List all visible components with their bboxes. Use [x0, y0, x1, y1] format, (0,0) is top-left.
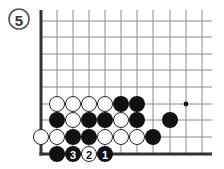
black-stone-icon [81, 112, 97, 128]
white-stone [66, 97, 81, 112]
black-stone-icon [113, 96, 129, 112]
black-stone-3: 3 [65, 146, 81, 162]
black-stone-icon [97, 112, 113, 128]
black-stone-icon [49, 112, 65, 128]
black-stone-icon [129, 96, 145, 112]
move-number: 2 [86, 149, 92, 161]
white-stone [82, 97, 97, 112]
white-stone-icon [66, 97, 81, 112]
black-stone-icon [129, 112, 145, 128]
move-number: 1 [102, 149, 108, 161]
star-point-icon [184, 102, 189, 107]
white-stone [98, 97, 113, 112]
white-stone [130, 130, 145, 145]
white-stone-icon [82, 97, 97, 112]
black-stone [97, 112, 113, 128]
white-stone-2: 2 [82, 147, 97, 162]
white-stone-icon [66, 113, 81, 128]
black-stone-icon [49, 146, 65, 162]
white-stone-icon [114, 113, 129, 128]
black-stone-icon [162, 112, 178, 128]
black-stone [49, 146, 65, 162]
black-stone [162, 112, 178, 128]
black-stone [81, 112, 97, 128]
black-stone [129, 96, 145, 112]
star-points [184, 102, 189, 107]
white-stone [50, 97, 65, 112]
white-stone [114, 130, 129, 145]
diagram-number-text: 5 [15, 12, 23, 29]
black-stone-icon [145, 129, 161, 145]
black-stone [145, 129, 161, 145]
white-stone-icon [98, 130, 113, 145]
black-stone-1: 1 [97, 146, 113, 162]
white-stone-icon [114, 130, 129, 145]
stones: 321 [34, 96, 179, 162]
black-stone [81, 129, 97, 145]
white-stone [66, 113, 81, 128]
white-stone [50, 130, 65, 145]
white-stone [34, 130, 49, 145]
white-stone-icon [130, 130, 145, 145]
white-stone-icon [34, 130, 49, 145]
black-stone [129, 112, 145, 128]
black-stone [49, 112, 65, 128]
black-stone-icon [65, 129, 81, 145]
white-stone-icon [98, 97, 113, 112]
diagram-number-label: 5 [9, 9, 29, 29]
white-stone-icon [50, 130, 65, 145]
black-stone-icon [81, 129, 97, 145]
white-stone [98, 130, 113, 145]
move-number: 3 [70, 149, 76, 161]
black-stone [65, 129, 81, 145]
white-stone-icon [50, 97, 65, 112]
white-stone [114, 113, 129, 128]
black-stone [113, 96, 129, 112]
go-board-diagram: 5 321 [0, 0, 224, 169]
